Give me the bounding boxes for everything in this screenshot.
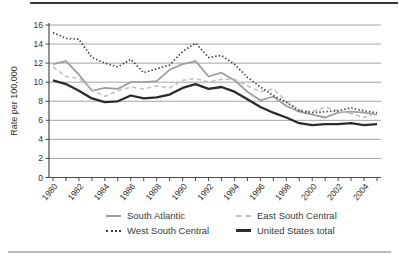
legend-label: East South Central: [257, 210, 337, 221]
chart-legend: South Atlantic East South Central West S…: [106, 210, 337, 236]
legend-item-west-south-central: West South Central: [106, 225, 236, 236]
x-tick-label: 1990: [169, 181, 189, 202]
x-tick-label: 2000: [299, 181, 319, 202]
legend-item-united-states-total: United States total: [236, 225, 337, 236]
y-tick-label: 14: [34, 39, 44, 49]
legend-label: United States total: [257, 225, 335, 236]
legend-item-east-south-central: East South Central: [236, 210, 337, 221]
x-tick-label: 1992: [195, 181, 215, 202]
y-tick-label: 4: [38, 134, 43, 144]
x-tick-label: 1986: [117, 181, 137, 202]
legend-swatch-solid-gray-icon: [106, 215, 121, 217]
x-tick-label: 1984: [92, 181, 112, 202]
y-tick-label: 6: [38, 115, 43, 125]
series-line-united-states-total: [53, 80, 377, 125]
x-tick-label: 1980: [40, 181, 60, 202]
x-tick-label: 1998: [273, 181, 293, 202]
x-tick-label: 1994: [221, 181, 241, 202]
x-tick-label: 1982: [66, 181, 86, 202]
y-tick-label: 2: [38, 153, 43, 163]
legend-label: West South Central: [127, 225, 209, 236]
x-tick-label: 2004: [351, 181, 371, 202]
legend-label: South Atlantic: [127, 210, 185, 221]
figure-bottom-rule: [8, 251, 391, 253]
line-chart: 0246810121416Rate per 100,00019801982198…: [0, 0, 399, 208]
series-line-south-atlantic: [53, 61, 377, 117]
x-tick-label: 1988: [143, 181, 163, 202]
y-tick-label: 0: [38, 173, 43, 183]
legend-swatch-dashed-line-icon: [236, 215, 251, 217]
y-tick-label: 12: [34, 58, 44, 68]
figure-page: 0246810121416Rate per 100,00019801982198…: [0, 0, 399, 264]
legend-item-south-atlantic: South Atlantic: [106, 210, 236, 221]
y-tick-label: 8: [38, 96, 43, 106]
x-tick-label: 2002: [325, 181, 345, 202]
x-tick-label: 1996: [247, 181, 267, 202]
y-axis-title: Rate per 100,000: [9, 66, 19, 136]
y-tick-label: 10: [34, 77, 44, 87]
y-tick-label: 16: [34, 20, 44, 30]
legend-swatch-dotted-line-icon: [106, 230, 121, 232]
legend-swatch-solid-black-icon: [236, 229, 251, 232]
